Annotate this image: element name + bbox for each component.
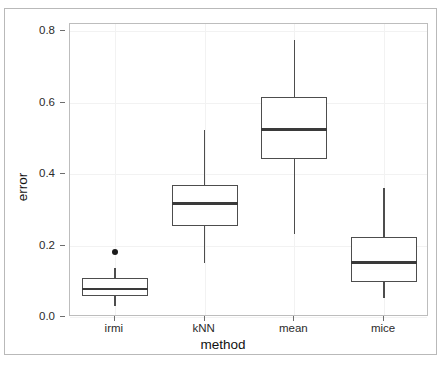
gridline-horizontal xyxy=(70,31,427,32)
boxplot-whisker-upper xyxy=(204,130,205,185)
y-axis: error 0.00.20.40.60.8 xyxy=(0,0,69,374)
figure-root: error 0.00.20.40.60.8 irmikNNmeanmice me… xyxy=(0,0,446,374)
y-tick-label: 0.6 xyxy=(39,96,55,108)
boxplot-whisker-lower xyxy=(114,296,115,305)
x-tick-label-mice: mice xyxy=(371,322,395,334)
boxplot-whisker-lower xyxy=(294,159,295,234)
y-tick-mark xyxy=(60,245,65,246)
boxplot-whisker-lower xyxy=(383,282,384,298)
y-tick-mark xyxy=(60,102,65,103)
boxplot-median-line xyxy=(82,288,148,291)
boxplot-box xyxy=(351,237,417,282)
y-tick-label: 0.8 xyxy=(39,24,55,36)
boxplot-whisker-lower xyxy=(204,226,205,263)
y-tick-mark xyxy=(60,173,65,174)
gridline-horizontal xyxy=(70,317,427,318)
x-tick-mark xyxy=(204,316,205,321)
y-tick-mark xyxy=(60,316,65,317)
x-tick-label-irmi: irmi xyxy=(105,322,124,334)
boxplot-median-line xyxy=(172,202,238,205)
boxplot-box xyxy=(172,185,238,226)
x-axis-label: method xyxy=(0,337,446,352)
y-axis-label: error xyxy=(15,173,30,202)
y-tick-label: 0.0 xyxy=(39,310,55,322)
boxplot-whisker-upper xyxy=(383,188,384,237)
boxplot-median-line xyxy=(351,261,417,264)
boxplot-median-line xyxy=(261,128,327,131)
boxplot-outlier-point xyxy=(112,249,118,255)
y-tick-mark xyxy=(60,30,65,31)
y-tick-label: 0.4 xyxy=(39,167,55,179)
x-tick-mark xyxy=(114,316,115,321)
gridline-horizontal xyxy=(70,174,427,175)
x-tick-mark xyxy=(293,316,294,321)
y-tick-label: 0.2 xyxy=(39,239,55,251)
plot-panel xyxy=(69,23,428,316)
boxplot-whisker-upper xyxy=(114,268,115,279)
x-tick-label-kNN: kNN xyxy=(192,322,214,334)
gridline-horizontal xyxy=(70,103,427,104)
boxplot-whisker-upper xyxy=(294,40,295,97)
x-tick-mark xyxy=(383,316,384,321)
x-tick-label-mean: mean xyxy=(279,322,308,334)
